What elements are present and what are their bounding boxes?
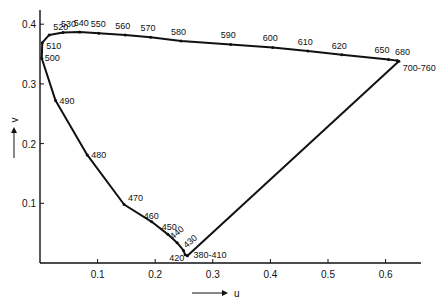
u-axis-label: u [192, 288, 240, 299]
v-axis-label: v [9, 118, 20, 159]
svg-text:v: v [9, 118, 20, 123]
axis-ticks: 0.10.20.30.40.50.60.10.20.30.4 [22, 19, 393, 280]
wavelength-label: 450 [162, 222, 177, 232]
wavelength-label: 380-410 [193, 250, 226, 260]
arrowhead-icon [222, 290, 228, 296]
wavelength-label: 700-760 [403, 63, 436, 73]
wavelength-label: 470 [128, 193, 143, 203]
wavelength-label: 610 [298, 37, 313, 47]
y-tick-label: 0.4 [22, 19, 36, 30]
wavelength-labels: 380-410420430440450460470480490500510520… [40, 18, 436, 263]
svg-text:u: u [234, 288, 240, 299]
spectral-locus [42, 32, 399, 256]
wavelength-label: 650 [374, 45, 389, 55]
wavelength-label: 420 [169, 253, 184, 263]
x-tick-label: 0.6 [379, 269, 393, 280]
x-tick-label: 0.2 [148, 269, 162, 280]
wavelength-label: 550 [91, 19, 106, 29]
wavelength-label: 540 [74, 18, 89, 28]
wavelength-label: 600 [263, 33, 278, 43]
wavelength-label: 460 [144, 211, 159, 221]
wavelength-label: 590 [221, 30, 236, 40]
chromaticity-diagram: 0.10.20.30.40.50.60.10.20.30.4 380-41042… [0, 0, 441, 307]
wavelength-label: 680 [395, 47, 410, 57]
arrowhead-icon [11, 127, 17, 133]
y-tick-label: 0.3 [22, 79, 36, 90]
y-tick-label: 0.2 [22, 139, 36, 150]
wavelength-label: 490 [60, 96, 75, 106]
wavelength-label: 500 [45, 53, 60, 63]
wavelength-label: 580 [171, 27, 186, 37]
purple-line [187, 61, 398, 256]
wavelength-label: 620 [332, 41, 347, 51]
x-tick-label: 0.4 [263, 269, 277, 280]
wavelength-label: 480 [91, 150, 106, 160]
x-tick-label: 0.3 [206, 269, 220, 280]
wavelength-label: 560 [115, 21, 130, 31]
x-tick-label: 0.1 [91, 269, 105, 280]
wavelength-label: 570 [141, 23, 156, 33]
wavelength-label: 510 [46, 41, 61, 51]
y-tick-label: 0.1 [22, 198, 36, 209]
x-tick-label: 0.5 [321, 269, 335, 280]
